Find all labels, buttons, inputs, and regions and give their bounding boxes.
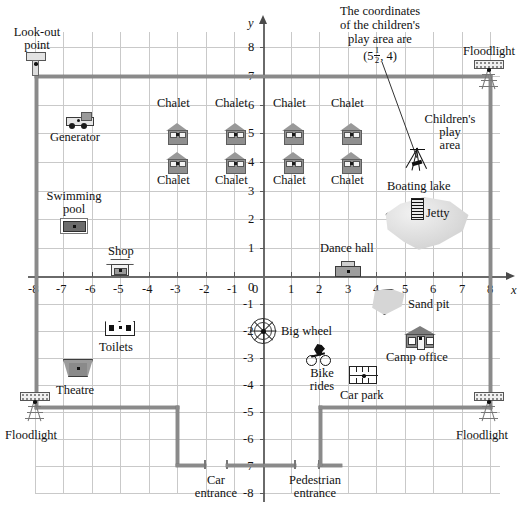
lookout-marker-dot xyxy=(34,62,38,66)
chalet-8-icon[interactable] xyxy=(340,152,362,172)
chalet-window-right xyxy=(179,132,186,138)
floodlight-bottom-left-label: Floodlight xyxy=(5,429,57,442)
childrens-play-area-label: Children's play area xyxy=(415,113,485,152)
toilets-icon[interactable] xyxy=(105,316,135,336)
sand-pit-shape xyxy=(370,289,406,315)
floodlight-brace-1 xyxy=(28,406,41,407)
car-entrance-label: Car entrance xyxy=(180,474,252,500)
x-tick--4: -4 xyxy=(142,283,152,296)
jetty-icon[interactable] xyxy=(411,198,424,220)
chalet-marker-dot xyxy=(292,133,295,136)
floodlight-brace-2 xyxy=(27,412,43,413)
camp-office-window-left xyxy=(408,337,416,345)
pedestrian-entrance-label: Pedestrian entrance xyxy=(272,474,358,500)
x-tick--2: -2 xyxy=(199,283,209,296)
floodlight-bottom-right-icon[interactable] xyxy=(474,392,504,422)
boating-lake-icon[interactable] xyxy=(382,196,474,252)
x-tick--3: -3 xyxy=(170,283,180,296)
toilets-label: Toilets xyxy=(99,341,133,354)
x-tick-3: 3 xyxy=(345,283,351,296)
chalet-4-icon[interactable] xyxy=(340,123,362,143)
bike-rides-icon[interactable] xyxy=(306,344,332,366)
chalet-window-right xyxy=(237,161,244,167)
car-park-icon[interactable] xyxy=(349,366,377,384)
chalet-window-right xyxy=(353,132,360,138)
chalet-3-label: Chalet xyxy=(273,97,306,110)
callout-coordinate-pair: (512, 4) xyxy=(300,46,460,65)
look-out-point-icon[interactable] xyxy=(26,52,46,76)
bike-wheel-front xyxy=(320,355,331,366)
x-tick-6: 6 xyxy=(430,283,436,296)
chalet-marker-dot xyxy=(292,162,295,165)
chalet-window-right xyxy=(179,161,186,167)
generator-cab xyxy=(81,112,92,121)
y-tick--6: -6 xyxy=(243,433,253,446)
camp-office-label: Camp office xyxy=(386,351,448,364)
callout-open: (5 xyxy=(363,49,373,63)
chalet-window-right xyxy=(295,132,302,138)
chalet-1-icon[interactable] xyxy=(166,123,188,143)
boating-lake-label: Boating lake xyxy=(387,180,451,193)
pool-water xyxy=(63,221,86,232)
theatre-icon[interactable] xyxy=(63,359,93,377)
x-tick--5: -5 xyxy=(113,283,123,296)
coordinate-map: x y -8 -7 -6 -5 -4 -3 -2 -1 0 1 2 3 4 5 … xyxy=(0,0,530,522)
generator-wheel-left xyxy=(69,123,75,129)
swimming-pool-icon[interactable] xyxy=(60,218,88,234)
x-tick--1: -1 xyxy=(227,283,237,296)
chalet-marker-dot xyxy=(176,162,179,165)
big-wheel-label: Big wheel xyxy=(281,325,332,338)
toilets-door-left xyxy=(109,325,114,331)
sand-pit-icon[interactable] xyxy=(370,289,406,315)
look-out-point-label-line2: point xyxy=(6,39,68,52)
shop-icon[interactable] xyxy=(106,259,134,276)
chalet-6-icon[interactable] xyxy=(224,152,246,172)
floodlight-brace-2 xyxy=(481,80,497,81)
camp-office-marker-dot xyxy=(419,337,422,340)
pedestrian-entrance-label-line2: entrance xyxy=(272,487,358,500)
callout-line-1: The coordinates xyxy=(300,4,460,18)
look-out-point-label: Look-out point xyxy=(6,26,68,52)
x-tick-1: 1 xyxy=(288,283,294,296)
shop-marker-dot xyxy=(119,269,122,272)
chalet-5-icon[interactable] xyxy=(166,152,188,172)
chalet-window-right xyxy=(237,132,244,138)
floodlight-top-right-icon[interactable] xyxy=(474,60,504,90)
theatre-label: Theatre xyxy=(56,384,94,397)
chalet-3-icon[interactable] xyxy=(282,123,304,143)
floodlight-marker-dot xyxy=(487,400,491,404)
bike-wheel-rear xyxy=(306,355,317,366)
floodlight-brace-2 xyxy=(481,412,497,413)
y-tick-8: 8 xyxy=(248,41,254,54)
floodlight-marker-dot xyxy=(487,68,491,72)
big-wheel-icon[interactable] xyxy=(250,318,276,344)
car-park-bay-1 xyxy=(356,367,357,372)
chalet-7-label: Chalet xyxy=(273,174,306,187)
toilets-roof-left xyxy=(105,316,119,322)
chalet-6-label: Chalet xyxy=(215,174,248,187)
toilets-roof-right xyxy=(120,316,134,322)
y-tick-2: 2 xyxy=(248,213,254,226)
chalet-2-icon[interactable] xyxy=(224,123,246,143)
shop-label: Shop xyxy=(108,245,134,258)
floodlight-bottom-left-icon[interactable] xyxy=(20,392,50,422)
car-park-bay-3 xyxy=(368,367,369,372)
generator-label: Generator xyxy=(50,131,100,144)
chalet-7-icon[interactable] xyxy=(282,152,304,172)
x-tick--7: -7 xyxy=(56,283,66,296)
floodlight-brace-1 xyxy=(482,74,495,75)
chalet-5-label: Chalet xyxy=(157,174,190,187)
dance-hall-icon[interactable] xyxy=(335,261,361,277)
dance-hall-marker-dot xyxy=(347,270,350,273)
chalet-marker-dot xyxy=(176,133,179,136)
toilets-marker-dot xyxy=(119,326,122,329)
camp-office-icon[interactable] xyxy=(404,326,436,348)
car-park-bay-5 xyxy=(362,378,363,383)
y-axis-name: y xyxy=(248,16,254,31)
car-entrance-label-line2: entrance xyxy=(180,487,252,500)
chalet-marker-dot xyxy=(350,162,353,165)
floodlight-brace-3 xyxy=(479,86,498,87)
generator-icon[interactable] xyxy=(66,112,92,128)
floodlight-marker-dot xyxy=(33,400,37,404)
chalet-window-right xyxy=(353,161,360,167)
